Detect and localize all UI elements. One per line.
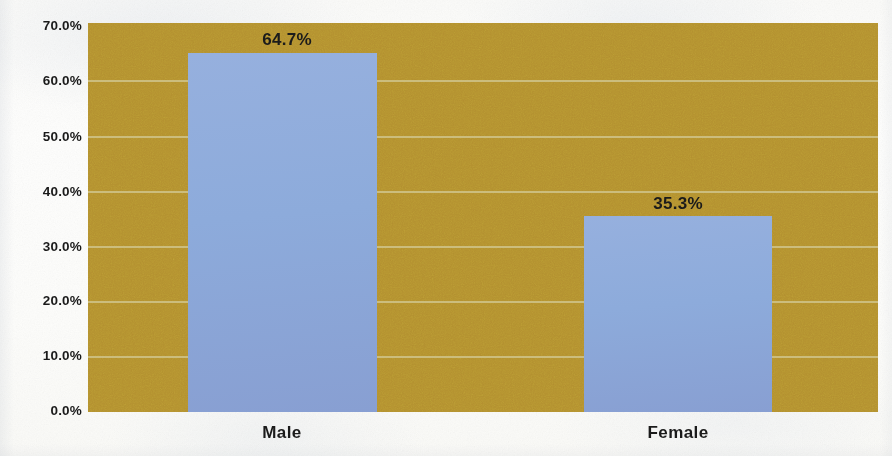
y-tick-label: 60.0% bbox=[8, 74, 82, 88]
y-axis: 70.0% 60.0% 50.0% 40.0% 30.0% 20.0% 10.0… bbox=[0, 0, 82, 456]
y-tick-label: 30.0% bbox=[8, 240, 82, 254]
y-tick-label: 20.0% bbox=[8, 294, 82, 308]
y-tick-label: 50.0% bbox=[8, 130, 82, 144]
bar-female[interactable] bbox=[584, 216, 772, 412]
bar-chart: 70.0% 60.0% 50.0% 40.0% 30.0% 20.0% 10.0… bbox=[0, 0, 892, 456]
y-tick-label: 70.0% bbox=[8, 19, 82, 33]
y-tick-label: 0.0% bbox=[8, 404, 82, 418]
plot-area bbox=[88, 23, 878, 412]
bar-male[interactable] bbox=[188, 53, 377, 412]
y-tick-label: 40.0% bbox=[8, 185, 82, 199]
category-label-female: Female bbox=[618, 424, 738, 441]
data-label-female: 35.3% bbox=[623, 195, 733, 212]
y-tick-label: 10.0% bbox=[8, 349, 82, 363]
data-label-male: 64.7% bbox=[232, 31, 342, 48]
category-label-male: Male bbox=[222, 424, 342, 441]
